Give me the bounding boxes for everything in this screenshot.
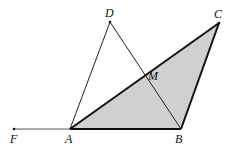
geometry-diagram: F A B C D M [0, 0, 234, 147]
label-a: A [64, 132, 73, 146]
label-d: D [104, 6, 114, 20]
point-f [13, 128, 16, 131]
label-c: C [214, 7, 223, 21]
label-f: F [9, 132, 18, 146]
label-m: M [147, 69, 159, 83]
point-d [109, 21, 112, 24]
label-b: B [175, 132, 183, 146]
point-c [218, 22, 221, 25]
